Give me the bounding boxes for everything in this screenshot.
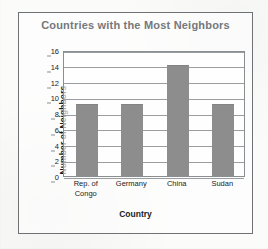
figure-frame: Countries with the Most Neighbors Number…	[18, 12, 253, 234]
x-tick-label: Rep. ofCongo	[63, 179, 109, 198]
y-tick-label: 12	[51, 78, 59, 87]
y-axis-tick-labels: 0246810121416	[33, 51, 59, 177]
x-tick-label-line: China	[154, 179, 200, 189]
y-tick-label: 14	[51, 62, 59, 71]
y-tick-label: 16	[51, 47, 59, 56]
y-tick-mark	[47, 103, 51, 104]
x-axis-title: Country	[19, 209, 252, 219]
y-tick-mark	[51, 182, 55, 183]
y-tick-label: 2	[55, 157, 59, 166]
x-tick-label: Sudan	[200, 179, 246, 189]
y-tick-label: 8	[55, 110, 59, 119]
y-tick-mark	[51, 166, 55, 167]
bars-layer	[64, 52, 244, 176]
y-tick-mark	[51, 150, 55, 151]
x-tick-label: China	[154, 179, 200, 189]
plot-area	[63, 51, 245, 177]
bar	[121, 104, 143, 176]
y-tick-mark	[51, 134, 55, 135]
x-axis-tick-labels: Rep. ofCongoGermanyChinaSudan	[63, 179, 245, 209]
y-tick-label: 6	[55, 125, 59, 134]
x-tick-label-line: Germany	[109, 179, 155, 189]
y-tick-mark	[47, 56, 51, 57]
bar	[76, 104, 98, 176]
y-tick-label: 10	[51, 94, 59, 103]
y-tick-label: 0	[55, 173, 59, 182]
x-tick-label-line: Congo	[63, 189, 109, 199]
x-tick-label-line: Sudan	[200, 179, 246, 189]
y-tick-mark	[47, 71, 51, 72]
x-tick-label-line: Rep. of	[63, 179, 109, 189]
y-tick-mark	[47, 87, 51, 88]
x-tick-label: Germany	[109, 179, 155, 189]
y-tick-label: 4	[55, 141, 59, 150]
bar	[212, 104, 234, 176]
bar	[167, 65, 189, 176]
y-tick-mark	[51, 119, 55, 120]
chart-title: Countries with the Most Neighbors	[19, 19, 252, 31]
